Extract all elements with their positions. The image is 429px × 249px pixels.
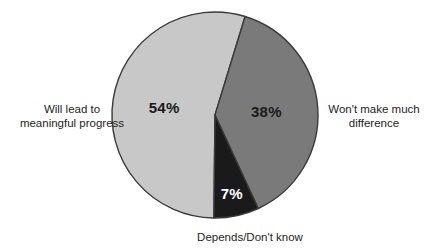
- pie-callout-label-no-difference: Won't make much difference: [322, 102, 426, 130]
- pie-callout-label-progress: Will lead to meaningful progress: [14, 102, 130, 130]
- chart-page: 54% 38% 7% Will lead to meaningful progr…: [0, 0, 429, 249]
- pie-callout-label-depends: Depends/Don't know: [175, 230, 325, 244]
- pie-slices: [112, 12, 318, 218]
- pie-value-label-progress: 54%: [149, 99, 180, 116]
- callout-left-line-1: Will lead to: [14, 102, 130, 116]
- pie-value-label-no-difference: 38%: [251, 103, 282, 120]
- callout-left-line-2: meaningful progress: [14, 116, 130, 130]
- callout-bottom-line-1: Depends/Don't know: [175, 230, 325, 244]
- pie-value-label-depends: 7%: [221, 185, 243, 202]
- callout-right-line-2: difference: [322, 116, 426, 130]
- callout-right-line-1: Won't make much: [322, 102, 426, 116]
